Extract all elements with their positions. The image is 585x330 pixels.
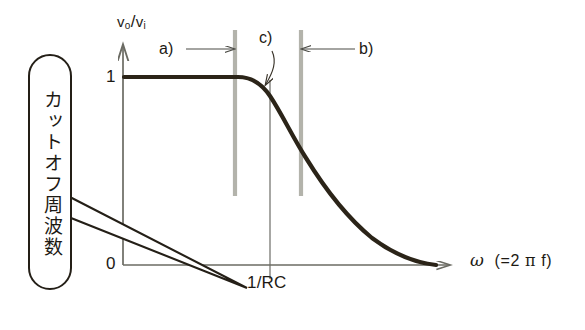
y-tick-label-zero: 0 <box>106 255 115 272</box>
omega-symbol: ω <box>470 250 484 270</box>
annotation-c-arrow <box>266 51 274 84</box>
annotation-label-c: c) <box>259 30 272 46</box>
y-axis-label-denominator: v <box>136 13 144 30</box>
y-axis-label: vo/vi <box>117 13 146 31</box>
cutoff-frequency-callout: カットオフ周波数 <box>28 54 72 290</box>
x-axis-label: ω (=2 π f) <box>470 252 552 269</box>
response-curve <box>124 77 436 265</box>
x-axis-label-close: f) <box>541 252 552 269</box>
plot-svg <box>0 0 585 330</box>
x-tick-label-cutoff: 1/RC <box>247 274 287 291</box>
callout-pointer <box>66 195 247 288</box>
cutoff-frequency-callout-label: カットオフ周波数 <box>30 56 74 292</box>
y-tick-label-one: 1 <box>106 68 115 85</box>
pi-symbol: π <box>525 251 536 270</box>
x-axis-label-open: (=2 <box>495 252 520 269</box>
y-axis-label-denominator-sub: i <box>144 20 147 31</box>
annotation-label-b: b) <box>359 41 373 57</box>
figure-canvas: カットオフ周波数 vo/vi 1 0 1/RC ω (=2 π f) a) b)… <box>0 0 585 330</box>
annotation-label-a: a) <box>159 41 173 57</box>
y-axis-label-numerator: v <box>117 13 125 30</box>
